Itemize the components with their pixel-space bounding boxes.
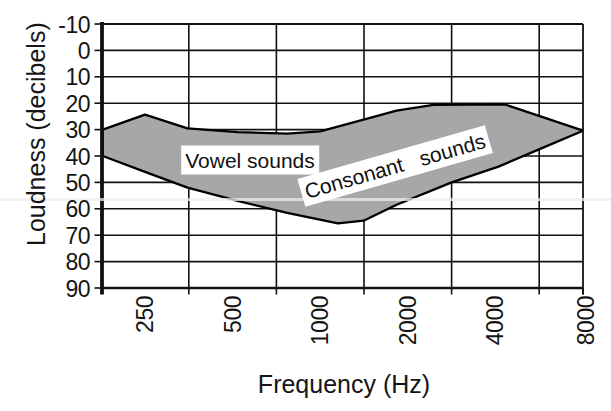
x-tick-label: 1000 [307,296,334,345]
y-tick-label: 80 [0,249,90,275]
x-tick-label: 500 [220,296,247,333]
y-axis-title: Loudness (decibels) [22,22,51,246]
x-axis-title: Frequency (Hz) [258,370,430,399]
x-tick-label: 2000 [395,296,422,345]
annotation-label: Vowel sounds [181,146,319,175]
x-tick-label: 250 [132,296,159,333]
speech-sounds-region [103,104,583,223]
x-tick-label: 4000 [482,296,509,345]
audiogram-speech-sounds-chart: Vowel soundsConsonant sounds -1001020304… [0,0,611,411]
y-tick-label: 90 [0,276,90,302]
x-tick-label: 8000 [573,296,600,345]
